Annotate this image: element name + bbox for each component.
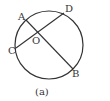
label-a: A: [18, 12, 25, 22]
caption: (a): [35, 87, 49, 97]
label-c: C: [8, 46, 16, 56]
circle-diagram: [0, 0, 110, 101]
label-d: D: [65, 4, 73, 14]
label-o: O: [32, 36, 40, 46]
label-b: B: [72, 69, 79, 79]
